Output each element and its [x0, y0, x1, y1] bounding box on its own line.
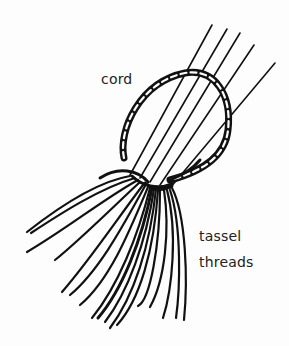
tassel-diagram: cord tassel threads — [0, 0, 289, 346]
cord-label: cord — [101, 69, 132, 89]
tassel-illustration — [0, 0, 289, 346]
tassel-threads-label: tassel threads — [199, 223, 254, 275]
tassel-threads — [27, 176, 186, 328]
tassel-label-line1: tassel — [199, 223, 254, 249]
cord-loop — [123, 72, 229, 180]
tassel-label-line2: threads — [199, 249, 254, 275]
